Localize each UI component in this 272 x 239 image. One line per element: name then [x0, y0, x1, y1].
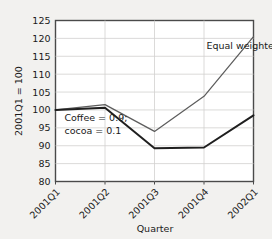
line-chart: 80859095100105110115120125 2001Q12001Q22… — [0, 0, 272, 239]
annotation-label: cocoa = 0.1 — [64, 125, 121, 136]
y-tick-label: 80 — [38, 176, 50, 187]
y-tick-label: 90 — [38, 140, 50, 151]
y-tick-label: 110 — [32, 69, 50, 80]
y-tick-label: 105 — [32, 87, 50, 98]
annotation-label: Coffee = 0.9; — [64, 112, 127, 123]
y-axis-title: 2001Q1 = 100 — [13, 66, 24, 136]
y-tick-label: 115 — [32, 51, 50, 62]
chart-figure: 80859095100105110115120125 2001Q12001Q22… — [0, 0, 272, 239]
y-tick-label: 95 — [38, 122, 50, 133]
annotation-label: Equal weighted — [206, 40, 272, 51]
y-tick-label: 100 — [32, 104, 50, 115]
y-tick-label: 120 — [32, 33, 50, 44]
y-tick-label: 85 — [38, 158, 50, 169]
x-axis-title: Quarter — [137, 223, 174, 234]
y-tick-label: 125 — [32, 15, 50, 26]
